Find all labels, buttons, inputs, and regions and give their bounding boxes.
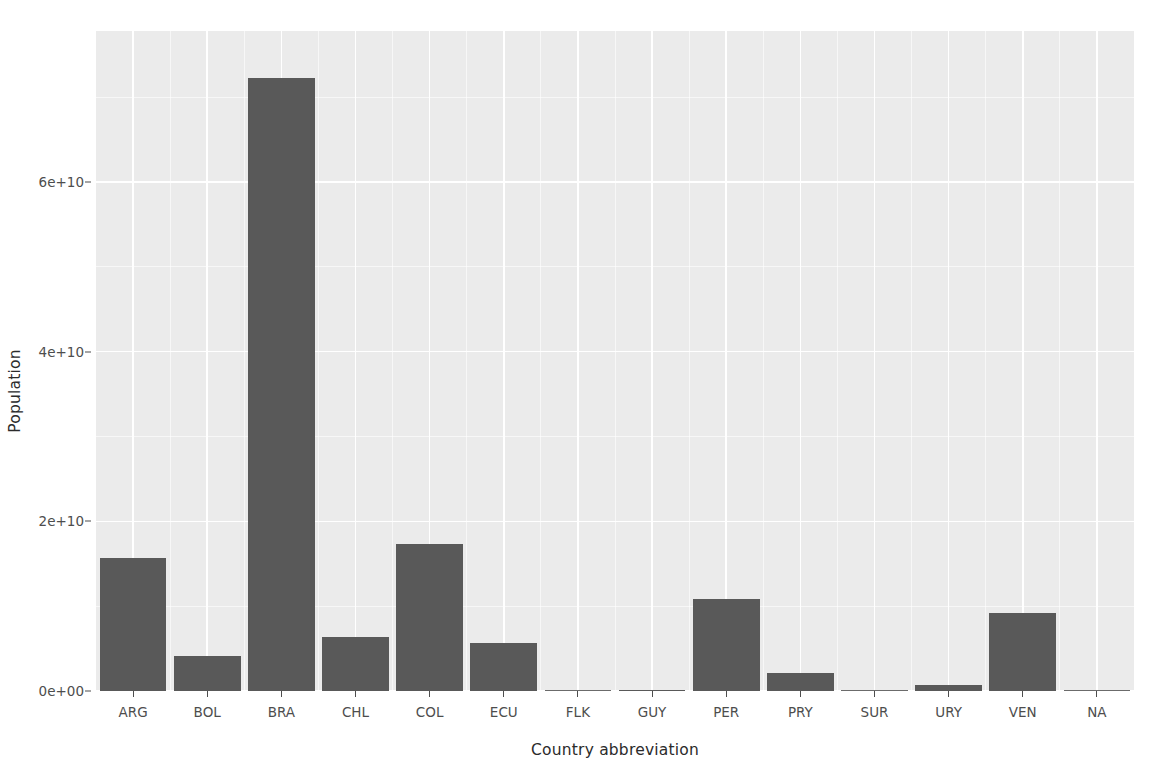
x-tick-mark <box>726 691 727 697</box>
bar-arg <box>100 558 167 691</box>
y-tick-label: 0e+00 <box>39 683 84 699</box>
x-tick-mark <box>429 691 430 697</box>
x-tick-label: SUR <box>861 704 889 720</box>
gridline-minor-vertical <box>837 31 838 691</box>
gridline-minor-vertical <box>615 31 616 691</box>
y-tick-label: 6e+10 <box>39 174 84 190</box>
x-tick-label: ARG <box>119 704 148 720</box>
gridline-minor-vertical <box>1059 31 1060 691</box>
bar-col <box>396 544 463 691</box>
gridline-minor-vertical <box>392 31 393 691</box>
gridline-major-vertical <box>503 31 505 691</box>
plot-panel <box>96 31 1134 691</box>
x-tick-label: ECU <box>490 704 518 720</box>
bar-chl <box>322 637 389 691</box>
gridline-major-vertical <box>577 31 579 691</box>
gridline-minor-vertical <box>763 31 764 691</box>
y-tick-label: 2e+10 <box>39 513 84 529</box>
x-tick-label: COL <box>416 704 444 720</box>
x-tick-mark <box>948 691 949 697</box>
y-tick-mark <box>85 691 91 692</box>
gridline-minor-vertical <box>244 31 245 691</box>
x-tick-mark <box>281 691 282 697</box>
gridline-minor-vertical <box>689 31 690 691</box>
gridline-major-vertical <box>1022 31 1024 691</box>
x-tick-mark <box>800 691 801 697</box>
y-tick-mark <box>85 521 91 522</box>
bar-bra <box>248 78 315 691</box>
x-axis-title-text: Country abbreviation <box>531 741 699 759</box>
x-tick-mark <box>355 691 356 697</box>
y-axis-ticks: 0e+002e+104e+106e+10 <box>0 0 96 781</box>
y-tick-mark <box>85 182 91 183</box>
gridline-minor-vertical <box>540 31 541 691</box>
bar-per <box>693 599 760 691</box>
x-tick-mark <box>652 691 653 697</box>
x-tick-label: NA <box>1087 704 1106 720</box>
gridline-major-vertical <box>800 31 802 691</box>
x-tick-mark <box>207 691 208 697</box>
x-axis-ticks: ARGBOLBRACHLCOLECUFLKGUYPERPRYSURURYVENN… <box>96 691 1134 741</box>
x-tick-label: VEN <box>1009 704 1037 720</box>
x-tick-label: URY <box>935 704 962 720</box>
bar-chart: 0e+002e+104e+106e+10 ARGBOLBRACHLCOLECUF… <box>0 0 1159 781</box>
x-tick-label: PRY <box>788 704 813 720</box>
bar-ecu <box>470 643 537 691</box>
gridline-major-vertical <box>651 31 653 691</box>
x-tick-mark <box>503 691 504 697</box>
x-tick-label: CHL <box>342 704 369 720</box>
bar-bol <box>174 656 241 691</box>
gridline-major-vertical <box>1096 31 1098 691</box>
gridline-major-vertical <box>355 31 357 691</box>
gridline-major-vertical <box>948 31 950 691</box>
x-tick-mark <box>1022 691 1023 697</box>
x-tick-mark <box>577 691 578 697</box>
gridline-minor-vertical <box>911 31 912 691</box>
x-tick-mark <box>133 691 134 697</box>
gridline-major-vertical <box>874 31 876 691</box>
x-tick-label: PER <box>713 704 739 720</box>
bar-ven <box>989 613 1056 691</box>
y-tick-mark <box>85 351 91 352</box>
gridline-minor-vertical <box>170 31 171 691</box>
gridline-major-vertical <box>725 31 727 691</box>
gridline-minor-vertical <box>466 31 467 691</box>
x-tick-label: BOL <box>194 704 221 720</box>
x-tick-label: FLK <box>566 704 590 720</box>
gridline-major-vertical <box>206 31 208 691</box>
gridline-minor-vertical <box>985 31 986 691</box>
x-tick-label: GUY <box>638 704 667 720</box>
y-tick-label: 4e+10 <box>39 344 84 360</box>
gridline-minor-vertical <box>318 31 319 691</box>
bar-pry <box>767 673 834 691</box>
x-tick-mark <box>1096 691 1097 697</box>
x-tick-mark <box>874 691 875 697</box>
x-axis-title: Country abbreviation <box>96 741 1134 759</box>
x-tick-label: BRA <box>268 704 295 720</box>
